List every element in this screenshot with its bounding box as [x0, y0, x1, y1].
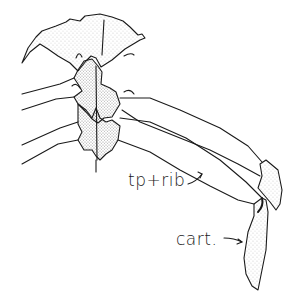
label-transverse-process-rib: tp+rib [128, 172, 185, 189]
label-cartilage: cart. [176, 231, 217, 248]
anatomical-illustration [0, 0, 304, 294]
rib-lower [118, 118, 262, 204]
rib-cartilage [244, 198, 268, 290]
left-ribs [22, 78, 80, 164]
